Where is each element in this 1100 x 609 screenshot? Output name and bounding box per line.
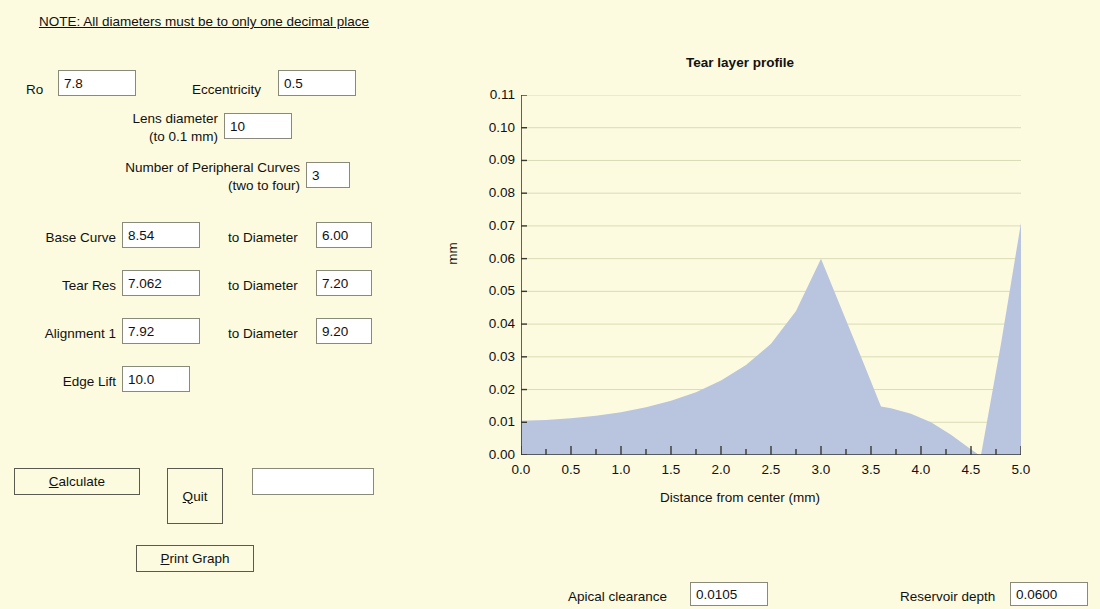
alignment-1-diameter-label: to Diameter <box>228 326 298 341</box>
edge-lift-input[interactable]: 10.0 <box>122 366 190 392</box>
print-graph-button[interactable]: Print Graph <box>136 545 254 572</box>
chart-y-tick-label: 0.08 <box>469 186 515 199</box>
chart-x-tick-label: 5.0 <box>1001 462 1041 477</box>
chart-x-tick-label: 0.0 <box>501 462 541 477</box>
chart-x-tick-label: 4.5 <box>951 462 991 477</box>
chart-x-tick-label: 3.5 <box>851 462 891 477</box>
peripheral-curves-hint-label: (two to four) <box>60 178 300 193</box>
tear-res-input[interactable]: 7.062 <box>122 270 200 296</box>
chart-y-axis-title: mm <box>445 224 460 284</box>
chart-x-tick-label: 4.0 <box>901 462 941 477</box>
tear-layer-profile-chart: Tear layer profile mm Distance from cent… <box>440 50 1040 515</box>
chart-y-tick-label: 0.01 <box>469 415 515 428</box>
calculate-button[interactable]: Calculate <box>14 468 140 495</box>
base-curve-diameter-label: to Diameter <box>228 230 298 245</box>
chart-y-tick-label: 0.07 <box>469 219 515 232</box>
quit-button[interactable]: Quit <box>167 468 223 524</box>
calculate-accel: C <box>49 474 59 489</box>
chart-y-tick-label: 0.11 <box>469 88 515 101</box>
chart-y-tick-label: 0.06 <box>469 252 515 265</box>
edge-lift-label: Edge Lift <box>0 374 116 389</box>
application-window: NOTE: All diameters must be to only one … <box>0 0 1100 609</box>
calculate-label: alculate <box>59 474 106 489</box>
base-curve-label: Base Curve <box>0 230 116 245</box>
message-output-field[interactable] <box>252 468 374 495</box>
chart-x-tick-label: 3.0 <box>801 462 841 477</box>
chart-y-tick-label: 0.04 <box>469 317 515 330</box>
alignment-1-diameter-input[interactable]: 9.20 <box>316 318 372 344</box>
tear-res-diameter-input[interactable]: 7.20 <box>316 270 372 296</box>
tear-res-diameter-label: to Diameter <box>228 278 298 293</box>
chart-y-tick-label: 0.09 <box>469 153 515 166</box>
eccentricity-label: Eccentricity <box>192 82 261 97</box>
quit-accel: Q <box>183 489 194 504</box>
chart-x-tick-label: 1.0 <box>601 462 641 477</box>
chart-y-tick-label: 0.05 <box>469 284 515 297</box>
chart-x-tick-label: 2.5 <box>751 462 791 477</box>
chart-title: Tear layer profile <box>440 55 1040 70</box>
chart-y-tick-label: 0.10 <box>469 121 515 134</box>
chart-x-tick-label: 1.5 <box>651 462 691 477</box>
chart-x-tick-label: 0.5 <box>551 462 591 477</box>
apical-clearance-value: 0.0105 <box>690 582 768 606</box>
chart-plot-area <box>521 95 1021 455</box>
lens-diameter-unit-label: (to 0.1 mm) <box>88 129 218 144</box>
lens-diameter-input[interactable]: 10 <box>224 113 292 139</box>
ro-label: Ro <box>26 82 43 97</box>
print-graph-label: rint Graph <box>169 551 229 566</box>
reservoir-depth-value: 0.0600 <box>1010 582 1088 606</box>
quit-label: uit <box>193 489 207 504</box>
apical-clearance-label: Apical clearance <box>568 589 667 604</box>
peripheral-curves-label: Number of Peripheral Curves <box>60 160 300 175</box>
tear-res-label: Tear Res <box>0 278 116 293</box>
reservoir-depth-label: Reservoir depth <box>900 589 995 604</box>
alignment-1-label: Alignment 1 <box>0 326 116 341</box>
chart-y-tick-label: 0.03 <box>469 350 515 363</box>
base-curve-input[interactable]: 8.54 <box>122 222 200 248</box>
peripheral-curves-input[interactable]: 3 <box>306 162 350 188</box>
ro-input[interactable]: 7.8 <box>58 70 136 96</box>
chart-y-tick-label: 0.00 <box>469 448 515 461</box>
base-curve-diameter-input[interactable]: 6.00 <box>316 222 372 248</box>
alignment-1-input[interactable]: 7.92 <box>122 318 200 344</box>
eccentricity-input[interactable]: 0.5 <box>278 70 356 96</box>
lens-diameter-label: Lens diameter <box>88 111 218 126</box>
chart-svg <box>521 95 1021 455</box>
chart-area-series <box>521 223 1021 455</box>
note-text: NOTE: All diameters must be to only one … <box>28 12 380 31</box>
chart-y-tick-label: 0.02 <box>469 383 515 396</box>
chart-x-axis-title: Distance from center (mm) <box>440 490 1040 505</box>
chart-x-tick-label: 2.0 <box>701 462 741 477</box>
